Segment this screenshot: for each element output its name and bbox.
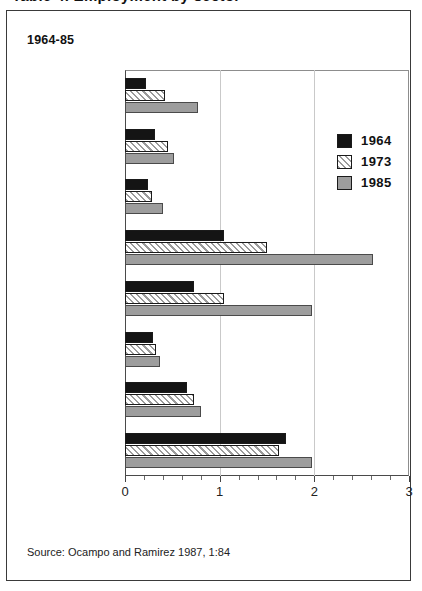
bar-1985-traditional-agriculture	[125, 457, 312, 468]
minor-tick	[276, 476, 277, 480]
bar-1973-coffee	[125, 344, 156, 355]
minor-tick	[371, 476, 372, 480]
major-tick	[125, 476, 126, 482]
gridline-1	[220, 70, 221, 476]
bar-1964-coffee	[125, 332, 153, 343]
figure-frame: 1964-85 publicindustryconstructionother …	[6, 10, 411, 581]
legend-label-1985: 1985	[361, 175, 392, 190]
bar-1964-public	[125, 78, 146, 89]
legend-swatch-1964	[337, 134, 352, 148]
legend-item-1985: 1985	[337, 172, 392, 193]
minor-tick	[201, 476, 202, 480]
major-tick	[409, 476, 410, 482]
bar-1985-other-private-sectors	[125, 254, 373, 265]
minor-tick	[144, 476, 145, 480]
bar-1985-independent-informal	[125, 305, 312, 316]
legend-label-1973: 1973	[361, 154, 392, 169]
bar-1973-other-private-sectors	[125, 242, 267, 253]
minor-tick	[258, 476, 259, 480]
xtick-label-1: 1	[216, 484, 223, 499]
minor-tick	[182, 476, 183, 480]
xtick-label-2: 2	[311, 484, 318, 499]
xtick-label-3: 3	[405, 484, 412, 499]
bar-1973-construction	[125, 191, 152, 202]
bar-1985-public	[125, 102, 198, 113]
legend-swatch-1973	[337, 155, 352, 169]
major-tick	[220, 476, 221, 482]
bar-1985-coffee	[125, 356, 160, 367]
gridline-2	[314, 70, 315, 476]
table-title: Table 4. Employment by sector	[12, 0, 241, 4]
legend-label-1964: 1964	[361, 133, 392, 148]
bar-1973-independent-informal	[125, 293, 224, 304]
xtick-label-0: 0	[121, 484, 128, 499]
minor-tick	[352, 476, 353, 480]
bar-1964-construction	[125, 179, 148, 190]
bar-1985-construction	[125, 203, 163, 214]
minor-tick	[239, 476, 240, 480]
minor-tick	[390, 476, 391, 480]
bar-1973-traditional-agriculture	[125, 445, 279, 456]
legend-item-1973: 1973	[337, 151, 392, 172]
bar-1964-independent-informal	[125, 281, 194, 292]
minor-tick	[295, 476, 296, 480]
bar-1964-other-private-sectors	[125, 230, 224, 241]
bar-1973-public	[125, 90, 165, 101]
bar-1985-other-modern-agriculture	[125, 406, 201, 417]
chart-subtitle: 1964-85	[27, 33, 74, 47]
chart-legend: 196419731985	[337, 130, 392, 193]
minor-tick	[333, 476, 334, 480]
bar-1985-industry	[125, 153, 174, 164]
major-tick	[314, 476, 315, 482]
minor-tick	[163, 476, 164, 480]
bar-1973-industry	[125, 141, 168, 152]
bar-1964-industry	[125, 129, 155, 140]
legend-swatch-1985	[337, 176, 352, 190]
bar-1964-traditional-agriculture	[125, 433, 286, 444]
source-note: Source: Ocampo and Ramirez 1987, 1:84	[27, 546, 230, 558]
bar-1964-other-modern-agriculture	[125, 382, 187, 393]
bar-1973-other-modern-agriculture	[125, 394, 194, 405]
legend-item-1964: 1964	[337, 130, 392, 151]
